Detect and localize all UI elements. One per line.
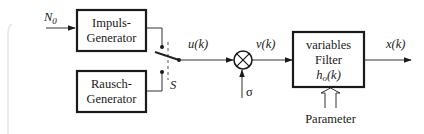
signal-v-label: v(k): [256, 37, 275, 51]
impulse-to-switch-wire: [147, 28, 162, 47]
parameter-arrow: [321, 88, 340, 108]
filter-line1: variables: [306, 38, 351, 52]
variable-filter-block: variables Filter ho(k): [293, 32, 364, 87]
filter-line2: Filter: [315, 53, 343, 67]
parameter-label: Parameter: [305, 112, 357, 126]
noise-generator-line2: Generator: [87, 92, 138, 106]
switch-contact-top: [160, 45, 164, 49]
filter-line3: ho(k): [316, 68, 341, 83]
noise-to-switch-wire: [147, 72, 162, 91]
impulse-generator-line1: Impuls-: [92, 16, 131, 30]
block-diagram: N0 Impuls- Generator Rausch- Generator S…: [0, 0, 424, 134]
signal-u-label: u(k): [188, 37, 208, 51]
switch-label: S: [170, 78, 177, 92]
impulse-generator-block: Impuls- Generator: [77, 10, 146, 51]
signal-x-label: x(k): [385, 37, 405, 51]
switch-contact-bottom: [160, 70, 164, 74]
impulse-generator-line2: Generator: [87, 31, 138, 45]
multiplier-node: [234, 51, 252, 69]
page-edge-line: [8, 24, 12, 134]
input-n0-label: N0: [43, 10, 57, 26]
noise-generator-line1: Rausch-: [91, 77, 132, 91]
noise-generator-block: Rausch- Generator: [77, 71, 146, 112]
sigma-label: σ: [246, 85, 253, 99]
switch-lever: [155, 52, 179, 60]
switch-s: S: [155, 42, 181, 92]
